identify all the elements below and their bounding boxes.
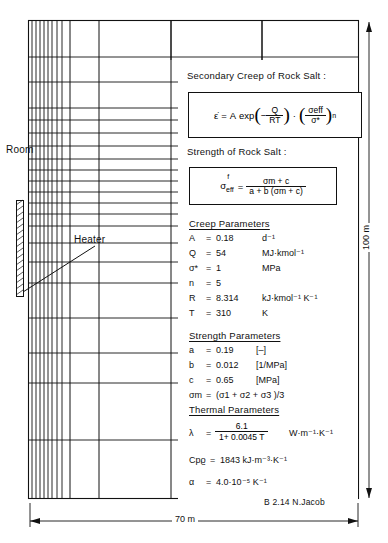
thermal-lambda-denominator: 1+ 0.0045 T — [215, 431, 268, 442]
strength-eq-lhs: f σeff — [220, 180, 235, 193]
strength-param-equals-2: = — [206, 375, 211, 385]
strength-param-value-1: 0.012 — [216, 360, 239, 370]
height-dimension-label: 100 m — [361, 223, 371, 252]
strength-param-symbol-2: c — [189, 375, 194, 385]
creep-param-equals-5: = — [206, 308, 211, 318]
creep-param-symbol-0: A — [189, 233, 195, 243]
strength-param-equals-0: = — [206, 345, 211, 355]
creep-param-equals-1: = — [206, 248, 211, 258]
diagram-canvas: Room Heater 70 m 100 m B 2.14 N.Jacob Se… — [0, 0, 388, 543]
creep-eq-q-rt: Q RT — [266, 106, 283, 125]
creep-param-symbol-3: n — [189, 278, 194, 288]
strength-eq-sub-eff: eff — [226, 185, 234, 192]
creep-equation-box: ε̇ = A exp ( − Q RT ) · ( σeff σ* ) n — [188, 92, 362, 138]
creep-eq-sigma-star: σ* — [305, 115, 326, 125]
strength-param-value-3: (σ1 + σ2 + σ3 )/3 — [216, 390, 284, 400]
creep-param-equals-0: = — [206, 233, 211, 243]
strength-heading: Strength of Rock Salt : — [187, 146, 287, 157]
strength-param-symbol-1: b — [189, 360, 194, 370]
creep-eq-exponent-n: n — [332, 112, 336, 119]
thermal-alpha-equals: = — [206, 477, 211, 487]
heater-leader-line — [23, 246, 95, 292]
creep-param-unit-4: kJ·kmol⁻¹ K⁻¹ — [262, 293, 318, 303]
creep-params-heading: Creep Parameters — [189, 218, 270, 229]
strength-param-value-0: 0.19 — [216, 345, 234, 355]
heater-block — [16, 200, 24, 297]
thermal-params-heading: Thermal Parameters — [189, 404, 279, 415]
creep-param-symbol-4: R — [189, 293, 196, 303]
creep-param-value-3: 5 — [216, 278, 221, 288]
height-dimension — [366, 22, 372, 498]
creep-param-unit-0: d⁻¹ — [262, 233, 275, 243]
strength-param-equals-3: = — [206, 390, 211, 400]
strength-param-unit-0: [–] — [256, 345, 266, 355]
creep-param-equals-2: = — [206, 263, 211, 273]
creep-eq-sigma-ratio: σeff σ* — [305, 106, 326, 125]
mesh-vertical-lines-dense — [32, 20, 62, 498]
strength-eq-denominator: a + b (σm + c) — [246, 186, 305, 196]
room-label: Room — [6, 144, 33, 155]
thermal-alpha-symbol: α — [189, 477, 194, 487]
thermal-cp-value: 1843 kJ·m⁻³·K⁻¹ — [220, 455, 287, 465]
creep-param-value-2: 1 — [216, 263, 221, 273]
creep-param-symbol-2: σ* — [189, 263, 198, 273]
strength-eq-fraction: σm + c a + b (σm + c) — [246, 177, 305, 196]
creep-param-symbol-5: T — [189, 308, 195, 318]
creep-eq-equals: = — [218, 110, 230, 121]
thermal-cp-symbol: Cpϱ — [189, 455, 206, 465]
thermal-lambda-unit: W·m⁻¹·K⁻¹ — [289, 428, 333, 438]
thermal-lambda-fraction: 6.1 1+ 0.0045 T — [215, 421, 268, 442]
title-block-credit: B 2.14 N.Jacob — [264, 497, 325, 507]
thermal-alpha-value: 4.0·10⁻⁵ K⁻¹ — [216, 477, 267, 487]
creep-param-equals-3: = — [206, 278, 211, 288]
strength-param-value-2: 0.65 — [216, 375, 234, 385]
creep-param-value-1: 54 — [216, 248, 226, 258]
strength-eq-equals: = — [235, 181, 247, 192]
creep-eq-dot: · — [290, 110, 299, 121]
creep-eq-Q: Q — [266, 106, 283, 115]
creep-param-unit-2: MPa — [262, 263, 281, 273]
strength-param-equals-1: = — [206, 360, 211, 370]
strength-param-unit-1: [1/MPa] — [256, 360, 287, 370]
strength-param-symbol-3: σm — [189, 390, 202, 400]
thermal-lambda-numerator: 6.1 — [215, 421, 268, 431]
strength-param-symbol-0: a — [189, 345, 194, 355]
creep-heading: Secondary Creep of Rock Salt : — [187, 70, 326, 81]
creep-eq-exp: exp — [236, 110, 254, 121]
strength-eq-sup-f: f — [227, 173, 229, 180]
strength-param-unit-2: [MPa] — [256, 375, 280, 385]
strength-eq-numerator: σm + c — [246, 177, 305, 186]
creep-eq-sigma-eff: σeff — [305, 106, 326, 115]
heater-label: Heater — [74, 234, 105, 245]
creep-param-value-4: 8.314 — [216, 293, 239, 303]
strength-params-heading: Strength Parameters — [189, 330, 280, 341]
creep-param-equals-4: = — [206, 293, 211, 303]
creep-param-value-0: 0.18 — [216, 233, 234, 243]
creep-param-symbol-1: Q — [189, 248, 196, 258]
strength-equation-box: f σeff = σm + c a + b (σm + c) — [189, 167, 337, 205]
creep-param-unit-1: MJ·kmol⁻¹ — [262, 248, 304, 258]
creep-eq-RT: RT — [266, 115, 283, 125]
thermal-lambda-equals: = — [206, 428, 211, 438]
thermal-lambda-symbol: λ — [189, 428, 194, 438]
creep-param-unit-5: K — [262, 308, 268, 318]
creep-param-value-5: 310 — [216, 308, 231, 318]
width-dimension-label: 70 m — [172, 514, 198, 524]
thermal-cp-equals: = — [210, 455, 215, 465]
